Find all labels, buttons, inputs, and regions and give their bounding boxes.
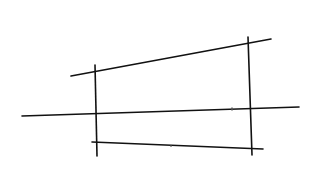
right-vertical-line <box>248 37 252 155</box>
bottom-line <box>92 142 263 149</box>
top-line <box>71 39 271 76</box>
tick-mark-middle-right <box>231 108 233 111</box>
tick-mark-bottom-center <box>170 145 172 147</box>
middle-line <box>22 107 299 116</box>
sketch-canvas <box>0 0 317 182</box>
